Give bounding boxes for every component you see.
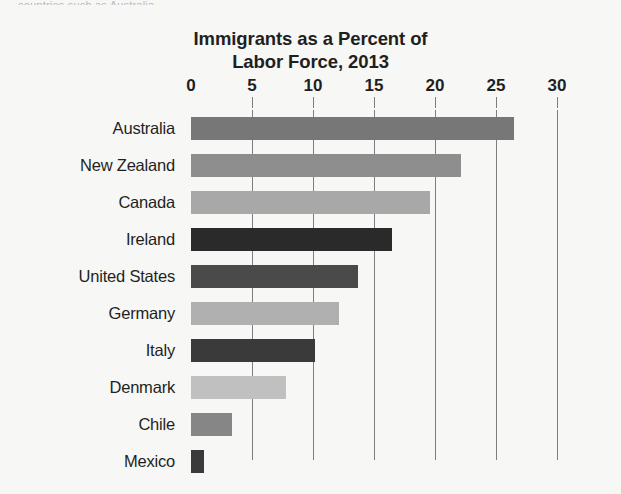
bar-italy bbox=[191, 339, 315, 362]
tick-mark-30 bbox=[557, 97, 558, 108]
tick-mark-25 bbox=[496, 97, 497, 108]
plot-area bbox=[191, 110, 557, 460]
bar-mexico bbox=[191, 450, 204, 473]
bar-row bbox=[191, 258, 557, 295]
chart-title-line-1: Immigrants as a Percent of bbox=[194, 28, 428, 49]
tick-mark-20 bbox=[435, 97, 436, 108]
bar-row bbox=[191, 406, 557, 443]
chart-title: Immigrants as a Percent of Labor Force, … bbox=[0, 27, 621, 73]
x-tick-label-20: 20 bbox=[410, 76, 460, 96]
y-label-germany: Germany bbox=[0, 302, 183, 325]
chart-title-line-2: Labor Force, 2013 bbox=[0, 50, 621, 73]
gridline-30 bbox=[557, 110, 558, 460]
bar-row bbox=[191, 443, 557, 480]
bar-row bbox=[191, 369, 557, 406]
bar-united-states bbox=[191, 265, 358, 288]
bar-row bbox=[191, 184, 557, 221]
immigrants-labor-force-bar-chart: countries such as Australia Immigrants a… bbox=[0, 0, 621, 494]
y-label-mexico: Mexico bbox=[0, 450, 183, 473]
bar-germany bbox=[191, 302, 339, 325]
bar-chile bbox=[191, 413, 232, 436]
y-label-chile: Chile bbox=[0, 413, 183, 436]
tick-mark-10 bbox=[313, 97, 314, 108]
y-label-denmark: Denmark bbox=[0, 376, 183, 399]
tick-mark-15 bbox=[374, 97, 375, 108]
x-axis-tick-labels: 051015202530 bbox=[0, 76, 621, 98]
y-label-new-zealand: New Zealand bbox=[0, 154, 183, 177]
bar-row bbox=[191, 221, 557, 258]
x-tick-label-25: 25 bbox=[471, 76, 521, 96]
x-tick-label-5: 5 bbox=[227, 76, 277, 96]
bar-canada bbox=[191, 191, 430, 214]
bar-row bbox=[191, 110, 557, 147]
clipped-body-text: countries such as Australia bbox=[18, 0, 248, 5]
x-tick-label-10: 10 bbox=[288, 76, 338, 96]
y-label-canada: Canada bbox=[0, 191, 183, 214]
y-label-italy: Italy bbox=[0, 339, 183, 362]
x-tick-label-15: 15 bbox=[349, 76, 399, 96]
y-label-united-states: United States bbox=[0, 265, 183, 288]
bar-australia bbox=[191, 117, 514, 140]
bar-row bbox=[191, 332, 557, 369]
x-tick-label-0: 0 bbox=[166, 76, 216, 96]
bar-new-zealand bbox=[191, 154, 461, 177]
bar-row bbox=[191, 295, 557, 332]
y-axis-category-labels: AustraliaNew ZealandCanadaIrelandUnited … bbox=[0, 110, 183, 480]
bar-ireland bbox=[191, 228, 392, 251]
y-label-ireland: Ireland bbox=[0, 228, 183, 251]
bar-row bbox=[191, 147, 557, 184]
y-label-australia: Australia bbox=[0, 117, 183, 140]
tick-mark-5 bbox=[252, 97, 253, 108]
bar-denmark bbox=[191, 376, 286, 399]
x-tick-label-30: 30 bbox=[532, 76, 582, 96]
